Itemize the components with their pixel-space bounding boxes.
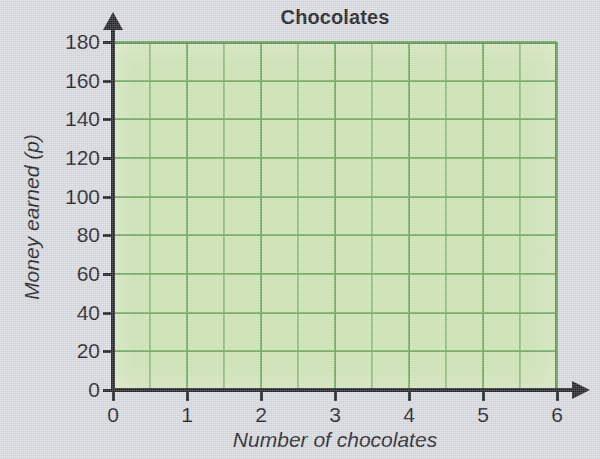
gridline-horizontal xyxy=(113,234,557,236)
x-axis-tick xyxy=(112,391,115,401)
x-axis-tick-label: 1 xyxy=(167,404,207,425)
gridline-horizontal xyxy=(113,350,557,352)
y-axis-tick xyxy=(103,312,113,315)
y-axis-tick xyxy=(103,350,113,353)
y-axis-tick xyxy=(103,157,113,160)
y-axis-tick xyxy=(103,234,113,237)
x-axis-tick xyxy=(408,391,411,401)
y-axis-tick xyxy=(103,41,113,44)
x-axis-tick-label: 0 xyxy=(93,404,133,425)
gridline-vertical xyxy=(371,42,373,390)
x-axis-tick xyxy=(482,391,485,401)
gridline-vertical xyxy=(334,42,336,390)
y-axis-tick xyxy=(103,273,113,276)
gridline-vertical xyxy=(408,42,410,390)
x-axis-tick-label: 2 xyxy=(241,404,281,425)
x-axis-tick xyxy=(556,391,559,401)
x-axis-tick xyxy=(186,391,189,401)
gridline-horizontal xyxy=(113,312,557,314)
gridline-vertical xyxy=(260,42,262,390)
x-axis-tick xyxy=(260,391,263,401)
y-axis-title: Money earned (p) xyxy=(20,102,44,332)
gridline-vertical xyxy=(519,42,521,390)
gridline-horizontal xyxy=(113,273,557,275)
plot-border-right xyxy=(555,42,557,390)
chart-title: Chocolates xyxy=(113,6,557,29)
gridline-horizontal xyxy=(113,196,557,198)
y-axis-tick xyxy=(103,196,113,199)
x-axis-title: Number of chocolates xyxy=(113,428,557,452)
gridline-horizontal xyxy=(113,118,557,120)
chart-figure: Chocolates 020406080100120140160180 0123… xyxy=(0,0,600,459)
y-axis-tick xyxy=(103,118,113,121)
y-axis-tick-label: 20 xyxy=(28,340,100,361)
x-axis-tick-label: 3 xyxy=(315,404,355,425)
gridline-vertical xyxy=(186,42,188,390)
y-axis-tick xyxy=(103,80,113,83)
y-axis-tick-label: 0 xyxy=(28,379,100,400)
x-axis-tick-label: 4 xyxy=(389,404,429,425)
gridline-horizontal xyxy=(113,80,557,82)
plot-border-top xyxy=(113,42,557,44)
gridline-vertical xyxy=(223,42,225,390)
x-axis-tick-label: 6 xyxy=(537,404,577,425)
x-axis-tick-label: 5 xyxy=(463,404,503,425)
gridline-vertical xyxy=(445,42,447,390)
gridline-vertical xyxy=(297,42,299,390)
y-axis-tick-label: 160 xyxy=(28,70,100,91)
plot-area xyxy=(113,42,557,390)
gridline-horizontal xyxy=(113,157,557,159)
gridline-vertical xyxy=(149,42,151,390)
x-axis-tick xyxy=(334,391,337,401)
x-axis-line xyxy=(111,388,575,392)
y-axis-arrow-icon xyxy=(103,12,123,30)
gridline-vertical xyxy=(482,42,484,390)
x-axis-arrow-icon xyxy=(572,381,590,399)
y-axis-tick-label: 180 xyxy=(28,31,100,52)
